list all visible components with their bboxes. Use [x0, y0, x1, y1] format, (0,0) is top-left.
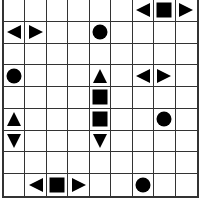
grid-cell[interactable] — [111, 152, 132, 174]
grid-cell[interactable] — [90, 0, 111, 22]
grid-cell[interactable] — [25, 22, 46, 44]
grid-cell[interactable] — [47, 174, 68, 196]
grid-cell[interactable] — [154, 65, 175, 87]
grid-cell[interactable] — [133, 174, 154, 196]
grid-cell[interactable] — [133, 87, 154, 109]
grid-cell[interactable] — [25, 174, 46, 196]
circle-icon — [135, 178, 150, 193]
grid-cell[interactable] — [25, 65, 46, 87]
circle-icon — [92, 25, 107, 40]
grid-cell[interactable] — [111, 0, 132, 22]
right-triangle-icon — [157, 69, 171, 83]
left-triangle-icon — [136, 69, 150, 83]
grid-cell[interactable] — [4, 22, 25, 44]
grid-cell[interactable] — [154, 22, 175, 44]
circle-icon — [157, 112, 172, 127]
grid-cell[interactable] — [90, 152, 111, 174]
grid-cell[interactable] — [4, 87, 25, 109]
grid-cell[interactable] — [25, 87, 46, 109]
grid-cell[interactable] — [176, 87, 197, 109]
grid-cell[interactable] — [111, 131, 132, 153]
grid-cell[interactable] — [68, 152, 89, 174]
grid-cell[interactable] — [68, 131, 89, 153]
grid-cell[interactable] — [176, 65, 197, 87]
grid-cell[interactable] — [133, 65, 154, 87]
grid-cell[interactable] — [47, 152, 68, 174]
grid-cell[interactable] — [90, 87, 111, 109]
grid-cell[interactable] — [154, 44, 175, 66]
down-triangle-icon — [93, 134, 107, 148]
grid-cell[interactable] — [25, 44, 46, 66]
left-triangle-icon — [136, 3, 150, 17]
grid-cell[interactable] — [4, 109, 25, 131]
grid-cell[interactable] — [4, 0, 25, 22]
grid-cell[interactable] — [25, 109, 46, 131]
grid-cell[interactable] — [111, 174, 132, 196]
grid-cell[interactable] — [90, 65, 111, 87]
grid-cell[interactable] — [4, 174, 25, 196]
grid-cell[interactable] — [90, 44, 111, 66]
grid-cell[interactable] — [133, 131, 154, 153]
right-triangle-icon — [179, 3, 193, 17]
grid-cell[interactable] — [133, 152, 154, 174]
down-triangle-icon — [7, 134, 21, 148]
grid-cell[interactable] — [25, 0, 46, 22]
grid-cell[interactable] — [68, 87, 89, 109]
square-icon — [92, 112, 107, 127]
grid-cell[interactable] — [176, 0, 197, 22]
grid-cell[interactable] — [68, 65, 89, 87]
grid-cell[interactable] — [68, 22, 89, 44]
grid-cell[interactable] — [154, 131, 175, 153]
grid-cell[interactable] — [68, 0, 89, 22]
square-icon — [50, 178, 65, 193]
right-triangle-icon — [72, 178, 86, 192]
up-triangle-icon — [93, 69, 107, 83]
grid-cell[interactable] — [90, 174, 111, 196]
grid-cell[interactable] — [133, 44, 154, 66]
grid-cell[interactable] — [90, 109, 111, 131]
grid-cell[interactable] — [47, 22, 68, 44]
right-triangle-icon — [29, 25, 43, 39]
grid-cell[interactable] — [176, 109, 197, 131]
grid-cell[interactable] — [176, 22, 197, 44]
grid-cell[interactable] — [133, 0, 154, 22]
circle-icon — [7, 68, 22, 83]
grid-cell[interactable] — [47, 109, 68, 131]
grid-cell[interactable] — [111, 44, 132, 66]
grid-cell[interactable] — [25, 152, 46, 174]
left-triangle-icon — [29, 178, 43, 192]
grid-cell[interactable] — [154, 109, 175, 131]
grid-cell[interactable] — [111, 109, 132, 131]
grid-cell[interactable] — [47, 44, 68, 66]
grid-cell[interactable] — [25, 131, 46, 153]
grid-cell[interactable] — [68, 174, 89, 196]
grid-cell[interactable] — [111, 87, 132, 109]
grid-cell[interactable] — [4, 152, 25, 174]
grid-cell[interactable] — [176, 174, 197, 196]
grid-cell[interactable] — [111, 65, 132, 87]
grid-cell[interactable] — [47, 87, 68, 109]
grid-cell[interactable] — [176, 152, 197, 174]
grid-cell[interactable] — [176, 44, 197, 66]
grid-cell[interactable] — [133, 109, 154, 131]
grid-cell[interactable] — [68, 109, 89, 131]
grid-cell[interactable] — [4, 65, 25, 87]
grid-cell[interactable] — [111, 22, 132, 44]
grid-cell[interactable] — [154, 152, 175, 174]
grid-cell[interactable] — [47, 0, 68, 22]
grid-cell[interactable] — [68, 44, 89, 66]
grid-cell[interactable] — [4, 131, 25, 153]
grid-cell[interactable] — [90, 131, 111, 153]
grid-cell[interactable] — [47, 65, 68, 87]
grid-cell[interactable] — [176, 131, 197, 153]
grid-cell[interactable] — [154, 87, 175, 109]
grid-cell[interactable] — [133, 22, 154, 44]
left-triangle-icon — [7, 25, 21, 39]
puzzle-grid — [2, 0, 199, 198]
grid-cell[interactable] — [154, 0, 175, 22]
up-triangle-icon — [7, 112, 21, 126]
grid-cell[interactable] — [4, 44, 25, 66]
grid-cell[interactable] — [90, 22, 111, 44]
grid-cell[interactable] — [47, 131, 68, 153]
grid-cell[interactable] — [154, 174, 175, 196]
